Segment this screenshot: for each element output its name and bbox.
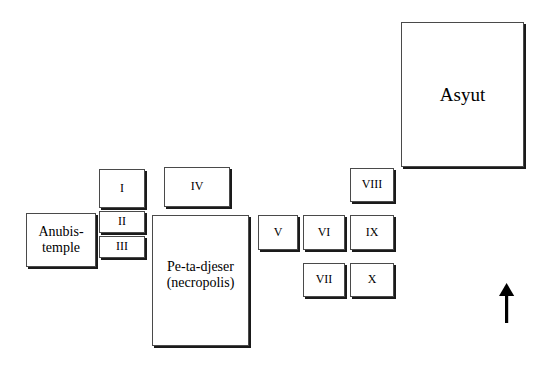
map-box-box-ii[interactable]: II bbox=[99, 211, 145, 233]
map-box-label-box-ix: IX bbox=[351, 226, 393, 239]
map-box-label-box-iii: III bbox=[100, 240, 144, 253]
map-box-box-iii[interactable]: III bbox=[99, 236, 145, 258]
north-arrow-icon bbox=[498, 283, 516, 323]
map-box-label-box-iv: IV bbox=[165, 180, 229, 193]
map-box-box-vi[interactable]: VI bbox=[303, 215, 345, 250]
map-box-box-i[interactable]: I bbox=[99, 169, 145, 208]
map-box-label-asyut: Asyut bbox=[402, 84, 523, 105]
map-box-box-x[interactable]: X bbox=[350, 263, 394, 297]
map-box-label-box-x: X bbox=[351, 273, 393, 286]
map-box-box-viii[interactable]: VIII bbox=[350, 168, 394, 202]
map-box-label-box-i: I bbox=[100, 182, 144, 195]
site-plan-diagram: AsyutIIIIIIIVAnubis-templePe-ta-djeser(n… bbox=[0, 0, 547, 365]
map-box-label-box-ii: II bbox=[100, 215, 144, 228]
map-box-box-ix[interactable]: IX bbox=[350, 215, 394, 250]
map-box-label-box-vii: VII bbox=[304, 273, 344, 286]
map-box-label-box-vi: VI bbox=[304, 226, 344, 239]
map-box-anubis[interactable]: Anubis-temple bbox=[26, 213, 96, 267]
map-box-label-box-viii: VIII bbox=[351, 178, 393, 191]
map-box-label-pe-ta-djeser: Pe-ta-djeser(necropolis) bbox=[153, 259, 248, 290]
map-box-label-box-v: V bbox=[259, 226, 297, 239]
map-box-box-iv[interactable]: IV bbox=[164, 167, 230, 207]
map-box-asyut[interactable]: Asyut bbox=[401, 22, 524, 167]
map-box-label-anubis: Anubis-temple bbox=[27, 224, 95, 255]
map-box-box-vii[interactable]: VII bbox=[303, 263, 345, 297]
map-box-box-v[interactable]: V bbox=[258, 215, 298, 250]
map-box-pe-ta-djeser[interactable]: Pe-ta-djeser(necropolis) bbox=[152, 215, 249, 346]
